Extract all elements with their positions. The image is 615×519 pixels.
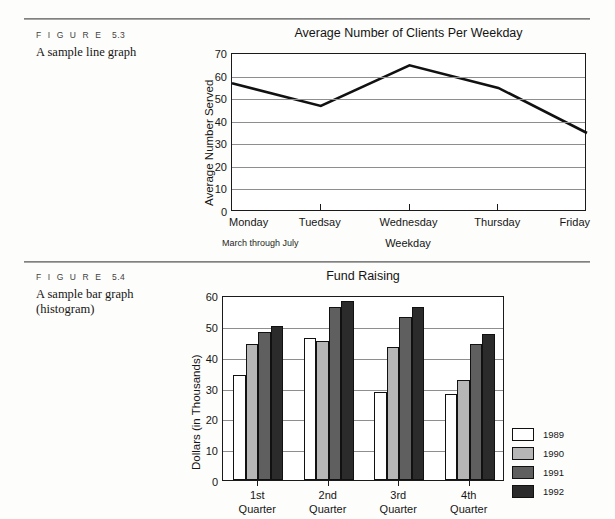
x-axis-tick-label: Friday [559,216,590,228]
bar [233,375,246,480]
y-axis-tick-label: 30 [206,384,218,396]
legend-swatch [512,466,534,479]
y-axis-tick-label: 60 [215,71,227,83]
y-axis-tick-label: 10 [215,183,227,195]
bar-chart: Fund Raising Dollars (in Thousands) 0102… [0,255,615,519]
bar [445,394,458,480]
y-axis-tick-label: 40 [206,353,218,365]
x-axis-tick-mark [398,481,399,486]
line-chart-x-axis-label: Weekday [385,237,431,249]
x-axis-tick-mark [320,204,321,211]
x-axis-group-label-bottom: Quarter [239,502,276,516]
bar-chart-y-axis-label: Dollars (in Thousands) [190,355,202,470]
gridline [223,328,503,329]
line-chart-y-axis-label: Average Number Served [203,80,215,206]
bar-chart-legend: 1989199019911992 [512,426,564,502]
bar [246,344,259,480]
legend-row: 1992 [512,483,564,499]
bar [470,344,483,480]
x-axis-group-label-top: 4th [450,488,487,502]
gridline [232,122,585,123]
figure-page: F I G U R E5.3 A sample line graph Avera… [0,0,615,519]
x-axis-group-label: 4thQuarter [450,488,487,516]
legend-label: 1992 [543,486,564,497]
y-axis-tick-label: 0 [221,206,227,218]
legend-label: 1990 [543,448,564,459]
bar [271,326,284,480]
bar [304,338,317,480]
x-axis-tick-mark [469,481,470,486]
bar [387,347,400,480]
bar [329,307,342,480]
line-chart: Average Number of Clients Per Weekday Av… [0,0,615,255]
legend-swatch [512,485,534,498]
y-axis-tick-label: 70 [215,48,227,60]
line-series-graphic [232,54,587,212]
gridline [232,189,585,190]
line-chart-note: March through July [222,238,299,248]
y-axis-tick-label: 30 [215,138,227,150]
x-axis-tick-label: Tuedsay [299,216,341,228]
gridline [232,167,585,168]
y-axis-tick-label: 50 [215,93,227,105]
y-axis-tick-label: 0 [212,476,218,488]
bar [316,341,329,480]
legend-row: 1989 [512,426,564,442]
bar [482,334,495,480]
legend-swatch [512,447,534,460]
bar [412,307,425,480]
bar-chart-plot-area: 0102030405060 [222,296,504,481]
y-axis-tick-label: 20 [215,161,227,173]
legend-swatch [512,428,534,441]
y-axis-tick-label: 40 [215,116,227,128]
x-axis-tick-mark [497,204,498,211]
legend-label: 1991 [543,467,564,478]
gridline [232,77,585,78]
x-axis-tick-label: Monday [229,216,268,228]
bar [374,392,387,480]
y-axis-tick-label: 60 [206,291,218,303]
x-axis-tick-mark [328,481,329,486]
x-axis-group-label-top: 2nd [309,488,346,502]
x-axis-group-label-bottom: Quarter [309,502,346,516]
x-axis-group-label: 1stQuarter [239,488,276,516]
x-axis-group-label-top: 1st [239,488,276,502]
x-axis-group-label-top: 3rd [380,488,417,502]
bar [457,380,470,480]
x-axis-group-label-bottom: Quarter [450,502,487,516]
x-axis-tick-label: Wednesday [380,216,438,228]
gridline [232,144,585,145]
legend-row: 1991 [512,464,564,480]
x-axis-group-label: 2ndQuarter [309,488,346,516]
x-axis-group-label-bottom: Quarter [380,502,417,516]
gridline [232,99,585,100]
line-chart-title: Average Number of Clients Per Weekday [231,26,586,40]
x-axis-tick-mark [257,481,258,486]
bar [341,301,354,480]
line-chart-plot-area: 010203040506070 [231,53,586,211]
legend-label: 1989 [543,429,564,440]
y-axis-tick-label: 50 [206,322,218,334]
y-axis-tick-label: 10 [206,445,218,457]
x-axis-group-label: 3rdQuarter [380,488,417,516]
bar-chart-title: Fund Raising [222,269,504,283]
x-axis-tick-mark [409,204,410,211]
legend-row: 1990 [512,445,564,461]
x-axis-tick-label: Thursday [474,216,520,228]
bar [258,332,271,480]
y-axis-tick-label: 20 [206,414,218,426]
bar [399,317,412,480]
